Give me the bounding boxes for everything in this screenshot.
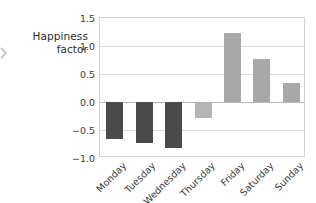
plot-area: 1.51.00.50.0−0.5−1.0 MondayTuesdayWednes…: [99, 17, 305, 157]
y-tick-label: 0.5: [80, 69, 95, 80]
bar: [136, 102, 153, 143]
bar: [195, 102, 212, 118]
y-tick-label: −0.5: [72, 125, 95, 136]
y-tick-label: −1.0: [72, 153, 95, 164]
y-tick-label: 1.5: [80, 13, 95, 24]
bar: [253, 59, 270, 102]
chevron-right-icon: [0, 44, 9, 56]
x-tick-label: Sunday: [272, 160, 305, 193]
y-axis-label-line1: Happiness: [10, 30, 88, 43]
gridline: [100, 46, 304, 47]
bar: [283, 83, 300, 102]
y-tick-label: 0.0: [80, 97, 95, 108]
bar: [165, 102, 182, 148]
bar: [224, 33, 241, 102]
y-axis-label: Happiness factor: [10, 30, 88, 56]
chart-figure: Happiness factor 1.51.00.50.0−0.5−1.0 Mo…: [0, 0, 316, 203]
bar: [106, 102, 123, 139]
gridline: [100, 130, 304, 131]
y-axis-label-line2: factor: [10, 43, 88, 56]
y-tick-label: 1.0: [80, 41, 95, 52]
gridline: [100, 74, 304, 75]
